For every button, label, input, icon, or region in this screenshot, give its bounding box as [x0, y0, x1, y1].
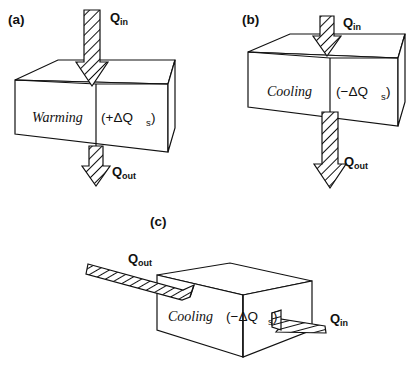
- panel-a-inflow-label: Q: [110, 10, 120, 25]
- panel-a-outflow-arrow: [82, 146, 110, 186]
- panel-c-state-label: Cooling: [168, 309, 213, 324]
- panel-a-outflow-label: Q: [112, 164, 122, 179]
- panel-b: (b) Q in Q out Cooling (−ΔQ s ): [242, 12, 405, 188]
- panel-a-inflow-sublabel: in: [120, 17, 128, 27]
- panel-b-inflow-label: Q: [343, 15, 353, 30]
- panel-b-outflow-arrow: [314, 112, 346, 188]
- panel-c-storage-close: ): [273, 309, 278, 324]
- panel-a-storage-close: ): [151, 110, 156, 125]
- diagram-canvas: (a) Q in Q out Warming (+ΔQ s ) (b): [0, 0, 414, 368]
- panel-a-state-label: Warming: [32, 110, 83, 125]
- panel-b-storage-label: (−ΔQ: [336, 84, 368, 99]
- panel-b-inflow-sublabel: in: [353, 22, 361, 32]
- heat-flux-diagram: (a) Q in Q out Warming (+ΔQ s ) (b): [0, 0, 414, 368]
- panel-c-storage-label: (−ΔQ: [226, 309, 258, 324]
- panel-a-label: (a): [8, 12, 25, 27]
- panel-c-label: (c): [150, 214, 167, 229]
- panel-a: (a) Q in Q out Warming (+ΔQ s ): [8, 10, 175, 186]
- panel-c: (c) Q out Q in Cooling (−ΔQ s ): [86, 214, 348, 357]
- panel-c-inflow-label: Q: [330, 311, 340, 326]
- panel-c-inflow-sublabel: in: [340, 318, 348, 328]
- panel-c-outflow-label: Q: [128, 251, 138, 266]
- panel-b-label: (b): [242, 12, 259, 27]
- panel-b-outflow-label: Q: [344, 154, 354, 169]
- panel-b-outflow-sublabel: out: [354, 161, 368, 171]
- panel-c-outflow-sublabel: out: [138, 258, 152, 268]
- panel-b-state-label: Cooling: [267, 84, 312, 99]
- panel-a-outflow-sublabel: out: [122, 171, 136, 181]
- panel-b-storage-close: ): [386, 84, 391, 99]
- panel-a-storage-label: (+ΔQ: [101, 110, 133, 125]
